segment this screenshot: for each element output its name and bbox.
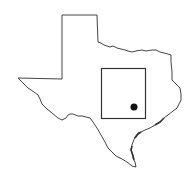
texas-locator-map (0, 0, 190, 179)
study-area-box (102, 69, 146, 119)
location-marker-dot (131, 104, 138, 111)
texas-state-outline (18, 15, 181, 167)
coastline-detail (131, 118, 164, 160)
